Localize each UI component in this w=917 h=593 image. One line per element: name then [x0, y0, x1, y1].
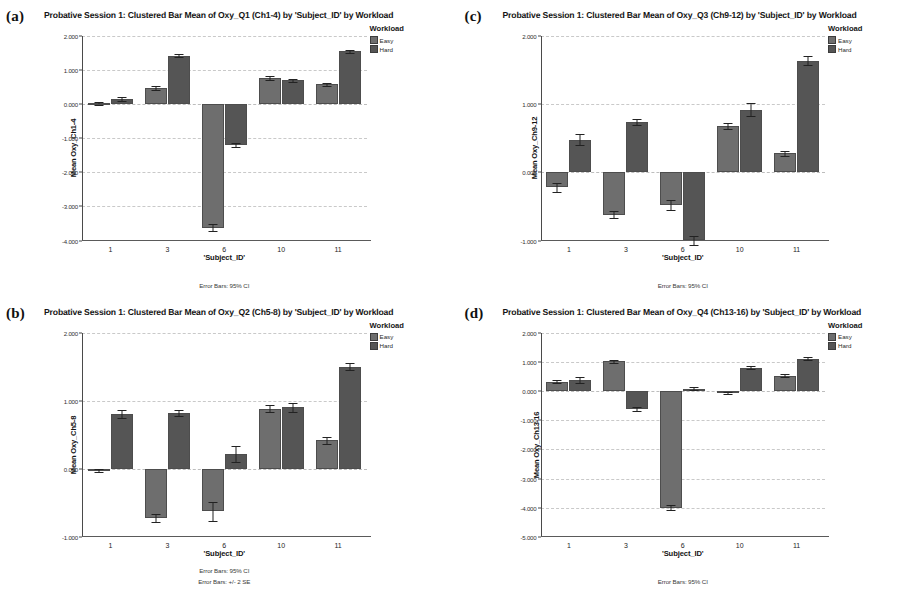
error-bar [326, 437, 327, 444]
bar[interactable] [282, 80, 304, 104]
bar[interactable] [603, 361, 625, 391]
legend-item[interactable]: Easy [819, 36, 903, 44]
bar[interactable] [168, 56, 190, 104]
bar[interactable] [339, 51, 361, 104]
x-tick-label: 3 [165, 246, 169, 253]
bar[interactable] [168, 413, 190, 469]
x-tick-label: 6 [222, 542, 226, 549]
legend: WorkloadEasyHard [819, 321, 903, 351]
bar[interactable] [259, 409, 281, 469]
error-bar-cap [804, 65, 813, 66]
bar[interactable] [797, 359, 819, 391]
bar[interactable] [740, 110, 762, 173]
bar-group: 11 [310, 333, 367, 538]
legend-item[interactable]: Easy [361, 36, 445, 44]
bar-group: 3 [139, 333, 196, 538]
x-tick-label: 11 [334, 246, 341, 253]
bar[interactable] [316, 84, 338, 104]
bar[interactable] [797, 61, 819, 173]
chart-title: Probative Session 1: Clustered Bar Mean … [503, 10, 912, 20]
chart-card: Probative Session 1: Clustered Bar Mean … [38, 2, 453, 295]
bar[interactable] [202, 104, 224, 227]
bar-groups: 1361011 [82, 36, 367, 241]
bar-slot [282, 333, 304, 538]
bar[interactable] [603, 172, 625, 214]
y-tick-label: 2.000 [522, 33, 536, 40]
error-bar-cap [322, 444, 331, 445]
bar-slot [569, 36, 591, 241]
legend-item[interactable]: Hard [361, 342, 445, 350]
error-bar [235, 446, 236, 462]
bar[interactable] [145, 469, 167, 518]
bar-slot [603, 36, 625, 241]
bar[interactable] [660, 391, 682, 508]
bar[interactable] [339, 367, 361, 469]
x-axis-title: 'Subject_ID' [82, 253, 367, 262]
panel-letter: (c) [465, 8, 482, 25]
error-bar-cap [610, 363, 619, 364]
error-bar-cap [117, 97, 126, 98]
legend-item[interactable]: Easy [819, 333, 903, 341]
bar-slot [569, 333, 591, 538]
legend-item[interactable]: Hard [819, 342, 903, 350]
y-tick-label: -2.000 [62, 169, 78, 176]
legend-title: Workload [361, 24, 445, 33]
error-bar-cap [265, 76, 274, 77]
bar-group: 10 [711, 333, 768, 538]
bar-group: 6 [654, 36, 711, 241]
legend-title: Workload [819, 24, 903, 33]
x-axis-title: 'Subject_ID' [541, 253, 826, 262]
bar[interactable] [111, 414, 133, 469]
legend-label: Easy [380, 333, 394, 340]
error-bar [671, 200, 672, 210]
footnote: Error Bars: 95% CI [541, 576, 826, 587]
bar-group: 6 [196, 333, 253, 538]
bar[interactable] [282, 407, 304, 468]
error-bar-cap [117, 101, 126, 102]
bar-group: 1 [82, 36, 139, 241]
error-bar [212, 502, 213, 521]
error-bar-cap [208, 231, 217, 232]
bar[interactable] [225, 104, 247, 145]
error-bar-cap [265, 405, 274, 406]
x-tick-label: 3 [165, 542, 169, 549]
legend-label: Easy [838, 37, 852, 44]
legend-item[interactable]: Hard [361, 45, 445, 53]
footnotes: Error Bars: 95% CI [541, 576, 826, 587]
error-bar-cap [174, 54, 183, 55]
bar[interactable] [717, 126, 739, 172]
error-bar-cap [174, 416, 183, 417]
error-bar-cap [208, 502, 217, 503]
bar-group: 10 [253, 36, 310, 241]
x-tick-label: 10 [277, 542, 285, 549]
bar-slot [660, 333, 682, 538]
error-bar [614, 211, 615, 218]
error-bar-cap [667, 505, 676, 506]
legend-item[interactable]: Easy [361, 333, 445, 341]
bar[interactable] [740, 368, 762, 391]
error-bar [580, 134, 581, 145]
y-tick-label: -1.000 [62, 534, 78, 541]
x-tick-label: 6 [681, 542, 685, 549]
bar-slot [282, 36, 304, 241]
error-bar-cap [576, 145, 585, 146]
x-tick-label: 6 [222, 246, 226, 253]
legend-title: Workload [361, 321, 445, 330]
error-bar-cap [322, 437, 331, 438]
x-tick-label: 3 [624, 542, 628, 549]
bar[interactable] [626, 122, 648, 172]
bar[interactable] [259, 78, 281, 105]
footnote: Error Bars: 95% CI [82, 280, 367, 291]
error-bar-cap [151, 522, 160, 523]
y-tick-label: 0.000 [64, 465, 78, 472]
error-bar-cap [288, 79, 297, 80]
bar-slot [717, 333, 739, 538]
chart-panel-d: (d)Probative Session 1: Clustered Bar Me… [459, 297, 917, 593]
bar-slot [259, 333, 281, 538]
legend-item[interactable]: Hard [819, 45, 903, 53]
legend-swatch-icon [828, 45, 836, 53]
bar[interactable] [683, 172, 705, 240]
y-tick-label: 0.000 [64, 101, 78, 108]
error-bar-cap [690, 387, 699, 388]
x-axis-title: 'Subject_ID' [82, 549, 367, 558]
